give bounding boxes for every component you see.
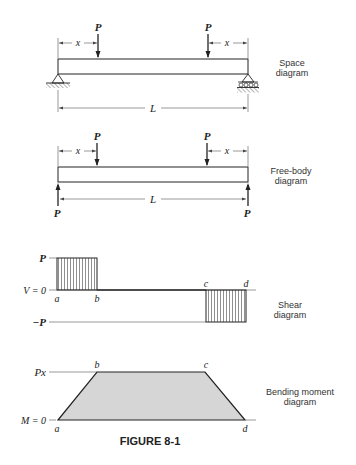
reaction-label-right: P <box>244 207 251 219</box>
shear-diagram: P V = 0 −P a b c d Shear diagram <box>23 252 306 328</box>
load-arrow-right <box>206 34 211 58</box>
dimension-x-right-label: x <box>224 145 230 156</box>
shear-diagram-label: Shear <box>278 300 302 310</box>
moment-diagram-label-2: diagram <box>284 397 317 407</box>
space-diagram-label: Space <box>279 58 305 68</box>
shear-point-a: a <box>55 293 60 304</box>
moment-trapezoid <box>58 372 245 420</box>
dimension-span-label: L <box>149 193 156 205</box>
load-arrow-left <box>95 143 100 166</box>
load-label-right: P <box>205 21 212 33</box>
load-label-left: P <box>95 21 102 33</box>
moment-point-b: b <box>95 359 100 370</box>
shear-point-c: c <box>204 278 209 289</box>
dimension-span-label: L <box>149 102 156 114</box>
load-arrow-right <box>205 143 210 166</box>
dimension-x-right-label: x <box>224 37 230 48</box>
reaction-arrow-left <box>56 183 61 206</box>
pin-support-icon <box>46 74 70 88</box>
shear-block-positive <box>57 258 97 290</box>
free-body-diagram-label-2: diagram <box>275 176 308 186</box>
free-body-diagram: P P x x P <box>54 130 312 219</box>
beam <box>58 167 248 182</box>
space-diagram-label-2: diagram <box>276 68 309 78</box>
moment-y-zero-label: M = 0 <box>20 415 46 426</box>
shear-y-top-label: P <box>39 252 46 264</box>
moment-diagram: Px M = 0 a b c d Bending moment diagram <box>20 359 335 434</box>
dimension-x-left-label: x <box>75 145 81 156</box>
dimension-x-left-label: x <box>75 37 81 48</box>
shear-point-b: b <box>95 293 100 304</box>
moment-y-top-label: Px <box>33 366 46 378</box>
free-body-diagram-label: Free-body <box>270 166 312 176</box>
shear-diagram-label-2: diagram <box>274 310 307 320</box>
load-label-left: P <box>94 130 101 142</box>
moment-point-a: a <box>55 423 60 434</box>
load-label-right: P <box>204 130 211 142</box>
shear-point-d: d <box>244 278 250 289</box>
moment-point-d: d <box>243 423 249 434</box>
beam <box>58 59 248 74</box>
shear-block-negative <box>206 290 246 322</box>
space-diagram: P P x x <box>46 21 308 114</box>
reaction-label-left: P <box>54 207 61 219</box>
shear-y-bottom-label: −P <box>33 316 47 328</box>
reaction-arrow-right <box>246 183 251 206</box>
moment-diagram-label: Bending moment <box>266 387 335 397</box>
moment-point-c: c <box>204 359 209 370</box>
figure-caption: FIGURE 8-1 <box>120 435 181 447</box>
roller-support-icon <box>237 74 259 93</box>
shear-y-zero-label: V = 0 <box>23 285 46 296</box>
figure-canvas: P P x x <box>0 0 356 465</box>
load-arrow-left <box>96 34 101 58</box>
